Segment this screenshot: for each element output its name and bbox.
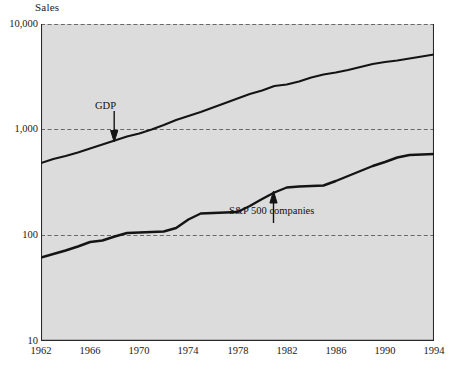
plot-frame xyxy=(41,24,434,341)
x-tick-label: 1962 xyxy=(21,345,61,357)
y-tick-label: 1,000 xyxy=(0,123,38,134)
x-tick-label: 1966 xyxy=(70,345,110,357)
chart-title: Sales xyxy=(35,1,59,14)
plot-canvas xyxy=(41,24,434,341)
x-tick-label: 1982 xyxy=(267,345,307,357)
x-tick-label: 1970 xyxy=(119,345,159,357)
x-tick-label: 1994 xyxy=(414,345,449,357)
gridlines xyxy=(41,25,434,236)
x-tick-label: 1974 xyxy=(168,345,208,357)
y-tick-label: 100 xyxy=(0,229,38,240)
y-tick-label: 10,000 xyxy=(0,18,38,29)
annotation-arrow-gdp xyxy=(111,111,118,142)
annotation-label-sp500: S&P 500 companies xyxy=(229,205,314,217)
x-tick-label: 1978 xyxy=(218,345,258,357)
plot-area xyxy=(41,24,434,341)
x-tick-label: 1986 xyxy=(316,345,356,357)
x-tick-label: 1990 xyxy=(365,345,405,357)
annotation-label-gdp: GDP xyxy=(95,100,116,112)
y-axis-tick-labels: 10,000 1,000 100 10 xyxy=(0,0,38,368)
